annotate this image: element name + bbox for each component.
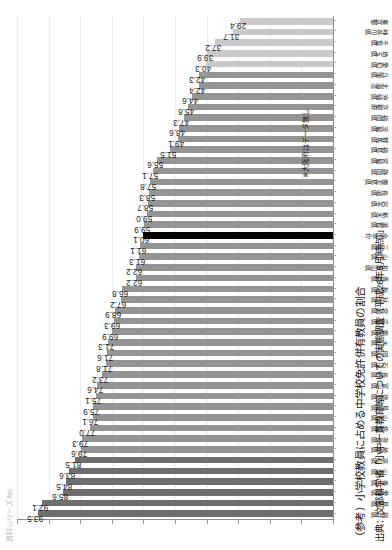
plot-area: 93.592.185.684.583.681.579.679.377.076.1… xyxy=(18,16,334,520)
bar: 44.6 xyxy=(192,93,333,100)
bar: 39.9 xyxy=(207,50,333,57)
category-label: 福岡県 xyxy=(336,114,388,120)
y-axis-line xyxy=(18,519,334,520)
bar-value-label: 69.9 xyxy=(102,332,118,340)
bar-item: 75.1 xyxy=(18,391,333,402)
bar: 76.1 xyxy=(93,414,333,421)
bar-item: 61.1 xyxy=(18,241,333,252)
category-tick: 宮城県 xyxy=(336,155,388,166)
bar-item: 93.5 xyxy=(18,508,333,519)
category-tick: 兵庫県 xyxy=(336,69,388,80)
bar: 42.4 xyxy=(199,82,333,89)
bar-value-label: 40.3 xyxy=(196,64,212,72)
category-label: 北海道 xyxy=(336,82,388,88)
bar-item: 75.9 xyxy=(18,401,333,412)
bar-item: 79.3 xyxy=(18,433,333,444)
bar-value-label: 67.2 xyxy=(111,300,127,308)
category-label: 宮城県 xyxy=(336,157,388,163)
bar-value-label: 45.8 xyxy=(178,107,194,115)
bar: 73.2 xyxy=(102,371,333,378)
bar: 42.3 xyxy=(199,72,333,79)
bar: 84.5 xyxy=(66,478,333,485)
bar-value-label: 84.5 xyxy=(56,482,72,490)
bar-value-label: 73.2 xyxy=(92,375,108,383)
bar-item: 42.3 xyxy=(18,69,333,80)
bar-value-label: 61.1 xyxy=(130,246,146,254)
bar-value-label: 29.4 xyxy=(230,21,246,29)
category-label: 栃木県 xyxy=(336,210,388,216)
bar-item: 58.7 xyxy=(18,198,333,209)
bar-value-label: 69.3 xyxy=(104,321,120,329)
bar-value-label: 42.3 xyxy=(189,75,205,83)
category-tick: 栃木県 xyxy=(336,208,388,219)
bar-item: 79.6 xyxy=(18,444,333,455)
category-label: 愛知県 xyxy=(336,60,388,66)
category-tick: 福岡県 xyxy=(336,112,388,123)
bar: 61.1 xyxy=(140,243,333,250)
category-label: 茨城県 xyxy=(336,125,388,131)
bar-item: 71.3 xyxy=(18,337,333,348)
bar-item: 59.0 xyxy=(18,209,333,220)
bar-item: 74.6 xyxy=(18,380,333,391)
category-tick: 千葉県 xyxy=(336,37,388,48)
category-label: 東京都 xyxy=(336,17,388,23)
bar-item: 58.3 xyxy=(18,187,333,198)
category-tick: 沖縄県 xyxy=(336,90,388,101)
category-label: 神奈川県 xyxy=(336,28,388,34)
bar-value-label: 59.9 xyxy=(134,225,150,233)
bar-value-label: 48.6 xyxy=(169,128,185,136)
category-label: 長崎県 xyxy=(336,189,388,195)
bar: 74.6 xyxy=(97,382,333,389)
category-label: 岩手県 xyxy=(336,200,388,206)
bar: 69.9 xyxy=(112,328,333,335)
bar-value-label: 44.6 xyxy=(182,96,198,104)
category-label: 京都府 xyxy=(336,103,388,109)
bar-value-label: 60.1 xyxy=(133,235,149,243)
bar: 47.3 xyxy=(184,114,333,121)
bar-value-label: 83.6 xyxy=(59,471,75,479)
bar-value-label: 57.1 xyxy=(143,171,159,179)
bar-item: 81.5 xyxy=(18,455,333,466)
bar: 68.9 xyxy=(115,307,333,314)
bar-item: 77.0 xyxy=(18,423,333,434)
bar-item: 37.2 xyxy=(18,37,333,48)
category-label: 兵庫県 xyxy=(336,71,388,77)
bar-item: 59.9 xyxy=(18,219,333,230)
category-label: 静岡県 xyxy=(336,168,388,174)
category-label: 千葉県 xyxy=(336,39,388,45)
bar-value-label: 55.6 xyxy=(147,160,163,168)
bar-value-label: 71.8 xyxy=(96,364,112,372)
bar-item: 67.2 xyxy=(18,294,333,305)
bar: 61.3 xyxy=(139,253,333,260)
bar-value-label: 59.0 xyxy=(137,214,153,222)
bar-item: 66.8 xyxy=(18,284,333,295)
bar: 59.0 xyxy=(147,211,333,218)
bar: 93.5 xyxy=(38,510,333,517)
bar-value-label: 79.6 xyxy=(72,449,88,457)
bar-value-label: 77.0 xyxy=(80,428,96,436)
bar: 75.1 xyxy=(96,393,333,400)
bar-value-label: 62.2 xyxy=(126,267,142,275)
bar: 92.1 xyxy=(42,500,333,507)
bar-value-label: 75.1 xyxy=(86,396,102,404)
bar-series: 93.592.185.684.583.681.579.679.377.076.1… xyxy=(18,16,333,519)
bar-value-label: 51.5 xyxy=(160,150,176,158)
category-tick: 北海道 xyxy=(336,80,388,91)
category-tick: 岩手県 xyxy=(336,197,388,208)
category-label: 沖縄県 xyxy=(336,93,388,99)
category-tick: 神奈川県 xyxy=(336,26,388,37)
bar: 66.8 xyxy=(122,286,333,293)
bar-item: 69.3 xyxy=(18,316,333,327)
bar: 67.2 xyxy=(121,296,333,303)
x-axis-line xyxy=(333,16,334,520)
bar-item: 45.8 xyxy=(18,102,333,113)
category-tick: 埼玉県 xyxy=(336,47,388,58)
bar-item: 44.6 xyxy=(18,91,333,102)
bar: 79.6 xyxy=(81,446,333,453)
bar: 57.8 xyxy=(150,179,333,186)
bar-value-label: 71.3 xyxy=(98,342,114,350)
category-label: 群馬県 xyxy=(336,135,388,141)
source-caption: 出典：文部科学省「小中一貫教育等についての実態調査（平成26年5月時点）」 xyxy=(372,225,386,542)
bar-item: 31.7 xyxy=(18,27,333,38)
bar-value-label: 66.8 xyxy=(112,289,128,297)
